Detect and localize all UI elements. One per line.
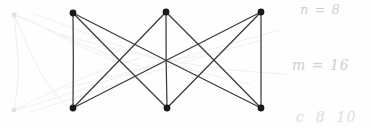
graph-edge-group (73, 12, 261, 108)
graph-vertex (258, 9, 265, 16)
graph-figure-canvas: n = 8 m = 16 c 8 10 (0, 0, 371, 128)
annotation-m-equals: m = 16 (292, 57, 350, 73)
graph-vertex (164, 105, 171, 112)
graph-vertex (70, 105, 77, 112)
graph-vertex (163, 9, 170, 16)
annotation-partial-bottom: c 8 10 (296, 109, 356, 125)
graph-vertex (70, 10, 77, 17)
graph-vertex (258, 105, 265, 112)
annotation-n-equals: n = 8 (300, 2, 341, 17)
